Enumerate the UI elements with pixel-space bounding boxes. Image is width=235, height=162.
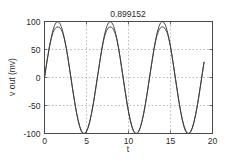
y-tick-label: 100 (26, 17, 40, 27)
y-tick-label: -100 (23, 129, 40, 139)
x-tick-label: 0 (42, 136, 47, 146)
figure-canvas: 0.899152 05101520 -100-50050100 t v out … (0, 0, 235, 162)
plot-svg: 0.899152 05101520 -100-50050100 t v out … (0, 0, 235, 162)
y-tick-label: 0 (36, 73, 41, 83)
y-tick-label: -50 (28, 101, 41, 111)
x-tick-label: 15 (166, 136, 176, 146)
y-tick-label: 50 (31, 45, 41, 55)
chart-title: 0.899152 (110, 9, 146, 19)
y-axis-label: v out (mv) (7, 58, 17, 96)
x-tick-label: 20 (208, 136, 218, 146)
x-tick-label: 5 (84, 136, 89, 146)
